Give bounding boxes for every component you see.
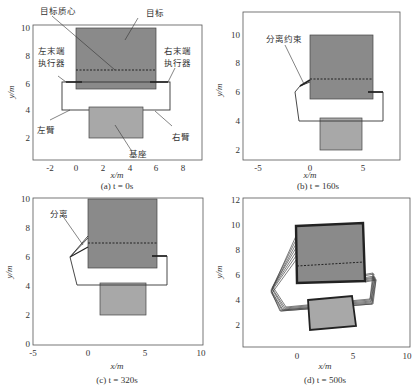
label-target-centroid: 目标质心 <box>40 6 76 16</box>
panel-a: 目标质心 目标 左末端 执行器 右末端 执行器 左臂 右臂 基座 -2 0 2 … <box>6 6 202 191</box>
caption: (d) t = 500s <box>304 375 346 385</box>
base-block <box>100 283 146 315</box>
label-separation-constraint: 分离约束 <box>266 34 302 44</box>
caption: (c) t = 320s <box>96 375 138 385</box>
ytick: 8 <box>26 51 31 61</box>
ytick: 4 <box>236 116 241 126</box>
label-right-end-effector-1: 右末端 <box>164 46 191 56</box>
panel-c: 分离 -5 0 5 10 10 8 6 4 2 0 x/m y/m (c) t … <box>4 194 206 385</box>
label-left-end-effector-2: 执行器 <box>38 58 65 68</box>
label-left-end-effector-1: 左末端 <box>38 46 65 56</box>
target-block <box>88 199 157 268</box>
ytick: 8 <box>236 245 241 255</box>
panel-b: 分离约束 -5 0 5 10 8 6 4 2 x/m y/m (b) t = 1… <box>214 12 400 191</box>
xtick: -5 <box>29 348 37 358</box>
ytick: 12 <box>231 195 240 205</box>
xtick: 0 <box>295 351 300 361</box>
ytick: 10 <box>21 194 31 204</box>
panel-d: 0 5 10 12 10 8 6 4 2 x/m y/m (d) t = 500… <box>214 195 412 385</box>
label-right-arm: 右臂 <box>172 132 190 142</box>
ytick: 2 <box>26 310 31 320</box>
ytick: 10 <box>231 220 241 230</box>
ytick: 4 <box>26 281 31 291</box>
xtick: 5 <box>143 348 148 358</box>
base-block <box>320 118 362 150</box>
xtick: 0 <box>86 348 91 358</box>
xtick: 10 <box>403 351 413 361</box>
caption: (b) t = 160s <box>297 181 339 191</box>
target-block <box>310 35 373 99</box>
base-block <box>308 296 356 330</box>
xtick: 2 <box>101 163 106 173</box>
xtick: 0 <box>74 163 79 173</box>
ytick: 2 <box>236 320 241 330</box>
label-target: 目标 <box>146 8 164 18</box>
y-axis-label: y/m <box>214 265 224 279</box>
xtick: -5 <box>254 163 262 173</box>
ytick: 6 <box>236 87 241 97</box>
target-block <box>296 223 365 283</box>
xtick: -2 <box>46 163 54 173</box>
ytick: 6 <box>26 252 31 262</box>
x-axis-label: x/m <box>110 361 124 371</box>
ytick: 10 <box>231 30 241 40</box>
ytick: 2 <box>236 145 241 155</box>
x-axis-label: x/m <box>318 361 332 371</box>
ytick: 6 <box>236 270 241 280</box>
target-block <box>76 28 156 89</box>
xtick: 8 <box>181 163 186 173</box>
xtick: 4 <box>128 163 133 173</box>
y-axis-label: y/m <box>4 265 14 279</box>
x-axis-label: x/m <box>110 170 124 180</box>
label-left-arm: 左臂 <box>37 125 55 135</box>
ytick: 8 <box>236 58 241 68</box>
caption: (a) t = 0s <box>101 181 134 191</box>
x-axis-label: x/m <box>303 170 317 180</box>
ytick: 4 <box>26 105 31 115</box>
ytick: 4 <box>236 295 241 305</box>
ytick: 0 <box>26 339 31 349</box>
label-separation: 分离 <box>50 209 68 219</box>
ytick: 10 <box>21 23 31 33</box>
xtick: 6 <box>154 163 159 173</box>
xtick: 5 <box>361 163 366 173</box>
label-right-end-effector-2: 执行器 <box>164 58 191 68</box>
xtick: 5 <box>351 351 356 361</box>
y-axis-label: y/m <box>6 85 16 99</box>
y-axis-label: y/m <box>214 83 224 97</box>
ytick: 6 <box>26 79 31 89</box>
ytick: 8 <box>26 223 31 233</box>
base-block <box>89 107 143 138</box>
xtick: 10 <box>197 348 207 358</box>
label-base: 基座 <box>129 149 147 159</box>
ytick: 2 <box>26 133 31 143</box>
figure-canvas: 目标质心 目标 左末端 执行器 右末端 执行器 左臂 右臂 基座 -2 0 2 … <box>0 0 418 392</box>
